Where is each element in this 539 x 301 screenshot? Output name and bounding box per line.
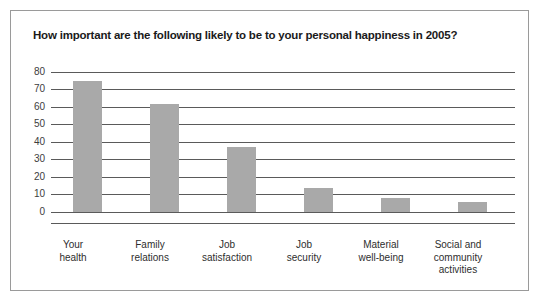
- y-axis-label-0: 0: [19, 206, 45, 217]
- x-axis-label-line: activities: [412, 264, 504, 277]
- bar-job-security: [304, 188, 333, 213]
- y-tick-20: [51, 177, 59, 178]
- chart-figure: How important are the following likely t…: [10, 10, 529, 291]
- gridline-40: [59, 142, 515, 143]
- y-tick-70: [51, 89, 59, 90]
- x-axis-label-line: Social and: [412, 239, 504, 252]
- bar-material-well-being: [381, 198, 410, 212]
- y-axis-label-10: 10: [19, 188, 45, 199]
- plot-area: [59, 72, 515, 212]
- y-tick-50: [51, 124, 59, 125]
- bar-social-and-community-activities: [458, 202, 487, 213]
- x-axis-label-social-and-community-activities: Social and community activities: [412, 239, 504, 277]
- gridline-20: [59, 177, 515, 178]
- y-axis-label-30: 30: [19, 153, 45, 164]
- y-axis-label-80: 80: [19, 66, 45, 77]
- gridline-80: [59, 72, 515, 73]
- y-axis-label-60: 60: [19, 101, 45, 112]
- y-axis-label-40: 40: [19, 136, 45, 147]
- bar-your-health: [73, 81, 102, 212]
- gridline-0: [59, 212, 515, 213]
- chart-title: How important are the following likely t…: [33, 29, 457, 41]
- gridline-30: [59, 159, 515, 160]
- gridline-60: [59, 107, 515, 108]
- gridline-70: [59, 89, 515, 90]
- y-axis-label-50: 50: [19, 118, 45, 129]
- y-tick-40: [51, 142, 59, 143]
- x-axis-label-line: community: [412, 252, 504, 265]
- bar-job-satisfaction: [227, 147, 256, 212]
- bar-family-relations: [150, 104, 179, 213]
- y-axis-label-70: 70: [19, 83, 45, 94]
- y-tick-30: [51, 159, 59, 160]
- gridline-10: [59, 194, 515, 195]
- y-tick-80: [51, 72, 59, 73]
- gridline-50: [59, 124, 515, 125]
- y-tick-10: [51, 194, 59, 195]
- y-tick-0: [51, 212, 59, 213]
- y-tick-60: [51, 107, 59, 108]
- x-axis-line: [51, 223, 515, 224]
- y-axis-label-20: 20: [19, 171, 45, 182]
